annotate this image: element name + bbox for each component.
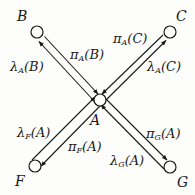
node-c-circle	[164, 26, 176, 38]
node-g-circle	[164, 161, 176, 173]
node-a-circle	[94, 94, 106, 106]
node-c-label: C	[176, 10, 187, 23]
node-f-circle	[29, 160, 41, 172]
message-label-lambda-a-b: λA(B)	[10, 60, 44, 77]
message-label-pi-g-a: πG(A)	[146, 127, 180, 144]
message-pi-a-b-arrow	[45, 37, 99, 95]
belief-propagation-diagram: B C A F G λA(B) πA(B) πA(C) λA(C) λF(A) …	[0, 0, 195, 195]
node-f-label: F	[15, 175, 25, 188]
node-a-label: A	[90, 114, 100, 127]
message-label-lambda-g-a: λG(A)	[110, 154, 144, 171]
diagram-graphics	[0, 0, 195, 195]
node-b-label: B	[17, 10, 27, 23]
message-label-pi-a-b: πA(B)	[70, 48, 104, 65]
message-label-lambda-a-c: λA(C)	[147, 60, 181, 77]
node-g-label: G	[177, 176, 188, 189]
message-label-pi-f-a: πF(A)	[68, 140, 102, 157]
node-b-circle	[31, 26, 43, 38]
message-label-lambda-f-a: λF(A)	[17, 126, 50, 143]
message-label-pi-a-c: πA(C)	[113, 32, 147, 49]
